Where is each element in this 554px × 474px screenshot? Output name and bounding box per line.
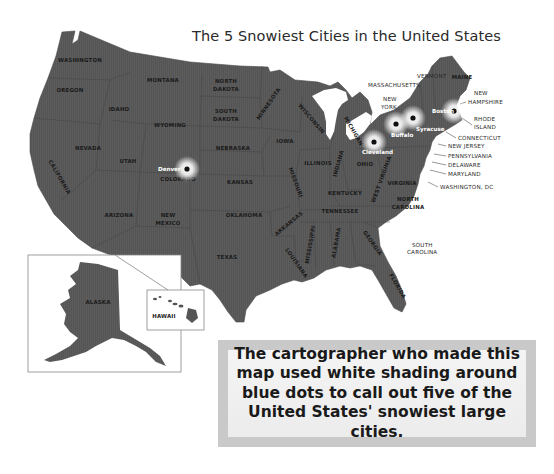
external-state-label: NEW <box>383 96 397 102</box>
state-label: WASHINGTON <box>58 57 102 63</box>
state-label: NORTH <box>215 78 237 84</box>
external-state-label: MARYLAND <box>448 171 481 177</box>
external-state-label: WASHINGTON, DC <box>440 184 493 190</box>
external-state-label: NEW JERSEY <box>448 143 485 150</box>
callout-text: The cartographer who made this map used … <box>228 345 526 443</box>
external-state-label: SOUTH <box>412 242 433 248</box>
state-label: SOUTH <box>215 108 237 114</box>
state-label: NEBRASKA <box>216 145 251 151</box>
state-label: OREGON <box>56 87 83 93</box>
state-label: OHIO <box>357 161 374 167</box>
city-label: Buffalo <box>391 132 413 138</box>
state-label: TENNESSEE <box>322 208 359 214</box>
city-dot-icon <box>184 166 189 171</box>
callout-line: United States' snowiest large cities. <box>228 403 526 442</box>
callout-line: map used white shading around <box>228 364 526 384</box>
state-label: NEW <box>161 212 176 218</box>
state-label: KANSAS <box>227 179 253 185</box>
state-label: DAKOTA <box>213 116 239 122</box>
city-dot-icon <box>410 115 415 120</box>
external-state-label: CONNECTICUT <box>458 135 501 141</box>
state-label: IDAHO <box>109 106 130 112</box>
state-label: OKLAHOMA <box>226 212 263 218</box>
external-state-label: HAMPSHIRE <box>468 99 503 105</box>
state-label: UTAH <box>119 158 136 164</box>
callout-inner: The cartographer who made this map used … <box>228 350 526 437</box>
external-state-label: DELAWARE <box>448 162 481 168</box>
external-state-label: CAROLINA <box>407 249 437 255</box>
state-label: ILLINOIS <box>304 160 331 166</box>
state-label: ARIZONA <box>105 212 135 218</box>
city-dot-icon <box>393 121 398 126</box>
state-label: MONTANA <box>147 77 180 83</box>
state-label: MAINE <box>452 74 473 80</box>
state-label: TEXAS <box>217 254 238 260</box>
external-state-label: ISLAND <box>474 124 496 130</box>
callout-line: The cartographer who made this <box>228 345 526 365</box>
city-label: Boston <box>432 108 454 114</box>
callout-box: The cartographer who made this map used … <box>218 340 536 447</box>
external-state-label: PENNSYLVANIA <box>448 153 492 159</box>
state-label: VIRGINIA <box>387 180 417 186</box>
alaska-label: ALASKA <box>85 299 111 305</box>
state-label: DAKOTA <box>213 86 239 92</box>
callout-line: blue dots to call out five of the <box>228 384 526 404</box>
state-label: CAROLINA <box>392 204 425 210</box>
external-state-label: NEW <box>474 90 488 96</box>
city-dot-icon <box>371 139 376 144</box>
state-label: MEXICO <box>156 220 181 226</box>
external-state-label: YORK <box>380 104 397 110</box>
external-state-label: MASSACHUSETTS <box>368 82 420 88</box>
hawaii-label: HAWAII <box>152 313 176 319</box>
external-state-label: RHODE <box>474 116 496 122</box>
state-label: IOWA <box>276 138 294 144</box>
state-label: WYOMING <box>154 122 186 128</box>
state-label: KENTUCKY <box>328 190 362 196</box>
state-label: NORTH <box>397 196 419 202</box>
city-label: Denver <box>158 166 181 172</box>
state-label: NEVADA <box>75 145 102 151</box>
city-label: Syracuse <box>416 126 445 133</box>
external-state-label: VERMONT <box>417 73 447 79</box>
city-label: Cleveland <box>362 149 393 155</box>
